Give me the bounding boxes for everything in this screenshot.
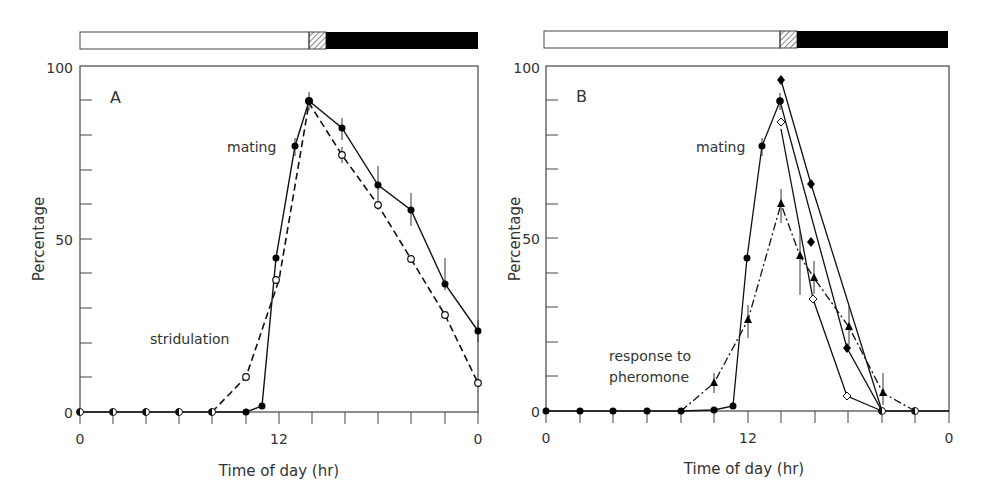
plot-frame-b <box>546 66 949 411</box>
markers-stridulation <box>243 152 482 387</box>
x-tick-label-12: 12 <box>270 431 288 447</box>
panel-b: 100 50 0 0 12 0 Time of day (hr) Percent… <box>506 31 953 478</box>
markers-mating-b-diamonds <box>777 75 851 353</box>
y-axis-label-b: Percentage <box>506 197 524 281</box>
y-ticks-a <box>80 100 92 377</box>
annotation-mating-a: mating <box>227 139 276 155</box>
series-mating-b-open-line <box>781 129 882 411</box>
x-axis-label-a: Time of day (hr) <box>218 462 339 480</box>
markers-mating-b-open <box>777 118 851 400</box>
light-dark-bar-a <box>80 32 478 49</box>
panel-letter-b: B <box>576 87 587 106</box>
x-tick-label-0-b: 0 <box>542 430 551 446</box>
y-tick-label-0-b: 0 <box>531 404 540 420</box>
annotation-response-line1: response to <box>609 348 691 364</box>
annotation-mating-b: mating <box>696 139 745 155</box>
y-tick-label-100: 100 <box>46 60 73 76</box>
x-tick-label-0: 0 <box>76 431 85 447</box>
markers-mating-a <box>243 97 482 416</box>
x-ticks-a <box>80 412 478 424</box>
series-pheromone-line <box>681 204 915 411</box>
y-ticks-b <box>546 100 558 376</box>
x-tick-label-24: 0 <box>474 431 483 447</box>
error-bars-a <box>295 92 478 342</box>
y-tick-label-100-b: 100 <box>513 60 540 76</box>
figure: 100 50 0 0 12 0 Time of day (hr) Percent… <box>0 0 981 501</box>
annotation-response-line2: pheromone <box>609 369 689 385</box>
annotation-stridulation: stridulation <box>150 331 229 347</box>
y-tick-label-0: 0 <box>64 405 73 421</box>
y-tick-label-50-b: 50 <box>522 231 540 247</box>
x-ticks-b <box>546 411 949 423</box>
y-axis-label-a: Percentage <box>30 197 48 281</box>
panel-a: 100 50 0 0 12 0 Time of day (hr) Percent… <box>30 32 482 480</box>
x-axis-label-b: Time of day (hr) <box>683 460 804 478</box>
x-tick-label-24-b: 0 <box>945 430 954 446</box>
y-tick-label-50: 50 <box>55 232 73 248</box>
panel-letter-a: A <box>110 88 121 107</box>
markers-mating-b <box>543 97 784 414</box>
x-tick-label-12-b: 12 <box>739 430 757 446</box>
light-dark-bar-b <box>544 31 948 48</box>
